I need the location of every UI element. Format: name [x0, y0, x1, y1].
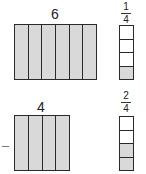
bar-part — [82, 25, 96, 79]
top-fraction: 1 4 — [118, 2, 134, 25]
bar-part — [69, 25, 83, 79]
strip-part-shaded — [120, 157, 133, 171]
bottom-bar-label: 4 — [33, 100, 49, 114]
top-fraction-strip — [119, 25, 134, 80]
strip-part-shaded — [120, 143, 133, 157]
strip-part — [120, 26, 133, 39]
fraction-numerator: 1 — [123, 1, 129, 12]
fraction-denominator: 4 — [123, 14, 129, 25]
fraction-denominator: 4 — [123, 103, 129, 114]
bar-part — [28, 116, 42, 170]
bottom-fraction: 2 4 — [118, 91, 134, 114]
bar-part — [42, 116, 56, 170]
strip-part — [120, 130, 133, 144]
bar-part — [41, 25, 55, 79]
strip-part — [120, 39, 133, 53]
top-bar-label: 6 — [47, 7, 63, 21]
bar-part — [15, 116, 28, 170]
strip-part — [120, 117, 133, 130]
bar-part — [28, 25, 42, 79]
left-dash-mark — [2, 146, 9, 147]
bottom-bar-model — [14, 115, 70, 171]
bar-part — [55, 25, 69, 79]
strip-part-shaded — [120, 66, 133, 80]
top-bar-model — [14, 24, 97, 80]
strip-part — [120, 52, 133, 66]
bar-part — [55, 116, 69, 170]
fraction-numerator: 2 — [123, 90, 129, 101]
bottom-fraction-strip — [119, 116, 134, 171]
bar-part — [15, 25, 28, 79]
